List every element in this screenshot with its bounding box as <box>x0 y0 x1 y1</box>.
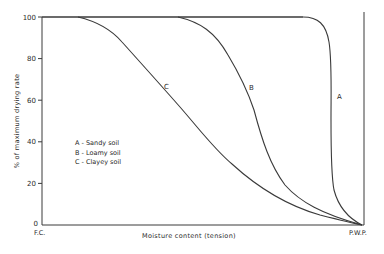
curve-a-sandy <box>42 17 362 225</box>
x-label-pwp: P.W.P. <box>349 229 367 237</box>
legend: A - Sandy soil B - Loamy soil C - Clayey… <box>75 139 121 166</box>
curve-label-a: A <box>337 93 342 101</box>
y-tick-100: 100 <box>23 14 36 22</box>
legend-item-a: A - Sandy soil <box>75 139 119 147</box>
y-ticks <box>38 17 42 183</box>
y-tick-20: 20 <box>27 180 36 188</box>
x-label-fc: F.C. <box>34 229 45 237</box>
y-tick-0: 0 <box>34 220 38 228</box>
y-tick-80: 80 <box>27 55 36 63</box>
y-axis-label: % of maximum drying rate <box>13 74 21 169</box>
x-axis-label: Moisture content (tension) <box>142 232 236 240</box>
curve-label-b: B <box>249 84 254 92</box>
curve-label-c: C <box>164 83 169 91</box>
curve-c-clayey <box>78 17 362 225</box>
y-tick-40: 40 <box>27 138 36 146</box>
legend-item-c: C - Clayey soil <box>75 158 121 166</box>
drying-rate-chart: 100 80 60 40 20 0 % of maximum drying ra… <box>0 0 384 254</box>
y-tick-60: 60 <box>27 97 36 105</box>
curve-b-loamy <box>178 17 362 225</box>
legend-item-b: B - Loamy soil <box>75 149 121 157</box>
